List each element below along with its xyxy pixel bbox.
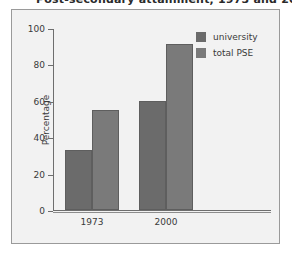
y-axis-tick-label: 80 (34, 60, 45, 70)
legend-item-label: total PSE (213, 48, 253, 58)
legend-swatch-icon (196, 32, 206, 42)
x-axis-line (53, 210, 271, 211)
y-axis-line (53, 29, 54, 211)
y-axis-tick-label: 0 (39, 206, 45, 216)
legend-item: total PSE (196, 48, 258, 58)
y-axis-tick-label: 60 (34, 97, 45, 107)
legend-item-label: university (213, 32, 258, 42)
y-axis-tick-mark (48, 211, 53, 212)
chart-title: Post-secondary attainment, 1973 and 2000 (36, 0, 292, 6)
legend-swatch-icon (196, 48, 206, 58)
bar-total-PSE-2000 (166, 44, 193, 210)
y-axis-tick-label: 100 (28, 24, 45, 34)
y-axis-tick-mark (48, 29, 53, 30)
chart-legend: university total PSE (196, 32, 258, 64)
bar-university-1973 (65, 150, 92, 210)
y-axis-tick-mark (48, 175, 53, 176)
chart-title-strip: Post-secondary attainment, 1973 and 2000 (0, 0, 292, 7)
x-axis-category-label: 2000 (155, 217, 178, 227)
y-axis-tick-mark (48, 65, 53, 66)
bar-university-2000 (139, 101, 166, 210)
x-axis-category-label: 1973 (81, 217, 104, 227)
x-axis-line-secondary (53, 212, 271, 213)
y-axis-tick-mark (48, 138, 53, 139)
bar-total-PSE-1973 (92, 110, 119, 210)
y-axis-tick-mark (48, 102, 53, 103)
legend-item: university (196, 32, 258, 42)
y-axis-tick-label: 40 (34, 133, 45, 143)
y-axis-tick-label: 20 (34, 170, 45, 180)
chart-frame: Percentage 020406080100 19732000 univers… (11, 9, 280, 244)
